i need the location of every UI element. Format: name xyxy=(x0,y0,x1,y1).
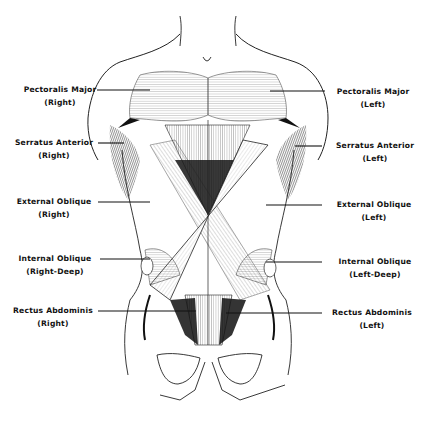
label-side: (Right) xyxy=(0,150,109,163)
internal-oblique xyxy=(141,249,276,285)
label-name: Serratus Anterior xyxy=(320,140,424,153)
label-serratus-anterior-left: Serratus Anterior (Left) xyxy=(320,140,424,165)
label-pectoralis-major-right: Pectoralis Major (Right) xyxy=(5,84,115,109)
label-name: External Oblique xyxy=(0,196,109,209)
label-serratus-anterior-right: Serratus Anterior (Right) xyxy=(0,137,109,162)
label-side: (Right) xyxy=(0,318,108,331)
label-name: External Oblique xyxy=(319,199,424,212)
label-pectoralis-major-left: Pectoralis Major (Left) xyxy=(318,86,424,111)
pelvis-outline xyxy=(157,354,285,400)
label-external-oblique-right: External Oblique (Right) xyxy=(0,196,109,221)
label-name: Internal Oblique xyxy=(0,253,110,266)
label-internal-oblique-right: Internal Oblique (Right-Deep) xyxy=(0,253,110,278)
neck-outline xyxy=(180,16,236,61)
label-name: Pectoralis Major xyxy=(318,86,424,99)
label-name: Pectoralis Major xyxy=(5,84,115,97)
label-name: Rectus Abdominis xyxy=(0,305,108,318)
label-side: (Left) xyxy=(319,212,424,225)
label-internal-oblique-left: Internal Oblique (Left-Deep) xyxy=(320,256,424,281)
label-rectus-abdominis-left: Rectus Abdominis (Left) xyxy=(317,307,424,332)
pectoralis-major xyxy=(118,71,300,128)
label-side: (Left) xyxy=(317,320,424,333)
label-name: Internal Oblique xyxy=(320,256,424,269)
label-side: (Left) xyxy=(318,99,424,112)
label-side: (Right-Deep) xyxy=(0,266,110,279)
label-name: Rectus Abdominis xyxy=(317,307,424,320)
label-name: Serratus Anterior xyxy=(0,137,109,150)
label-side: (Left-Deep) xyxy=(320,269,424,282)
label-external-oblique-left: External Oblique (Left) xyxy=(319,199,424,224)
label-side: (Right) xyxy=(0,209,109,222)
label-side: (Left) xyxy=(320,153,424,166)
label-rectus-abdominis-right: Rectus Abdominis (Right) xyxy=(0,305,108,330)
label-side: (Right) xyxy=(5,97,115,110)
